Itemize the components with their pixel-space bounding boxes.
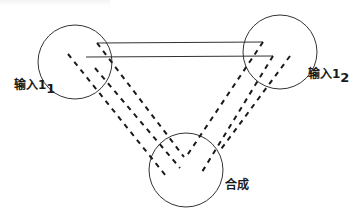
input1-label: 输入11 bbox=[14, 78, 55, 96]
dashed-connectors bbox=[68, 42, 290, 176]
dashed-line-input2-4 bbox=[186, 42, 263, 157]
input2-circle bbox=[243, 15, 317, 89]
synth-label: 合成 bbox=[225, 178, 249, 192]
dashed-line-input1-1 bbox=[97, 43, 184, 157]
dashed-line-input1-3 bbox=[95, 68, 180, 168]
solid-line-2 bbox=[86, 56, 273, 57]
synth-label-text: 合成 bbox=[225, 178, 249, 192]
input2-label-subscript: 2 bbox=[340, 70, 349, 85]
dashed-line-input2-5 bbox=[202, 56, 273, 172]
node-circles bbox=[38, 15, 317, 207]
solid-line-1 bbox=[97, 42, 263, 43]
input2-label: 输入12 bbox=[308, 67, 349, 85]
input1-label-subscript: 1 bbox=[46, 81, 55, 96]
solid-connectors bbox=[86, 42, 273, 57]
dashed-line-input2-6 bbox=[219, 56, 290, 152]
input2-label-text: 输入1 bbox=[308, 67, 340, 81]
input1-label-text: 输入1 bbox=[14, 78, 46, 92]
